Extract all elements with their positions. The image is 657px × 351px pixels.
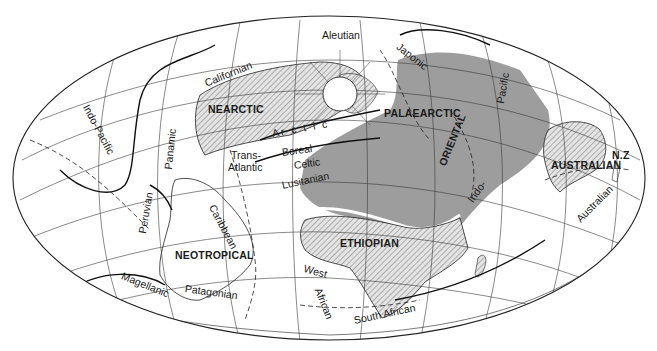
label-aleutian: Aleutian — [322, 30, 360, 41]
label-nz: N.Z — [612, 150, 630, 161]
label-ethiopian: ETHIOPIAN — [340, 238, 399, 249]
label-australian: AUSTRALIAN — [551, 160, 621, 171]
label-neotropical: NEOTROPICAL — [175, 250, 254, 261]
label-palaearctic: PALAEARCTIC — [384, 108, 461, 119]
label-trans-atlantic-2: Atlantic — [228, 162, 262, 173]
north-pole-circle — [323, 77, 357, 111]
label-trans-atlantic-1: Trans- — [231, 150, 261, 161]
label-nearctic: NEARCTIC — [208, 104, 264, 115]
